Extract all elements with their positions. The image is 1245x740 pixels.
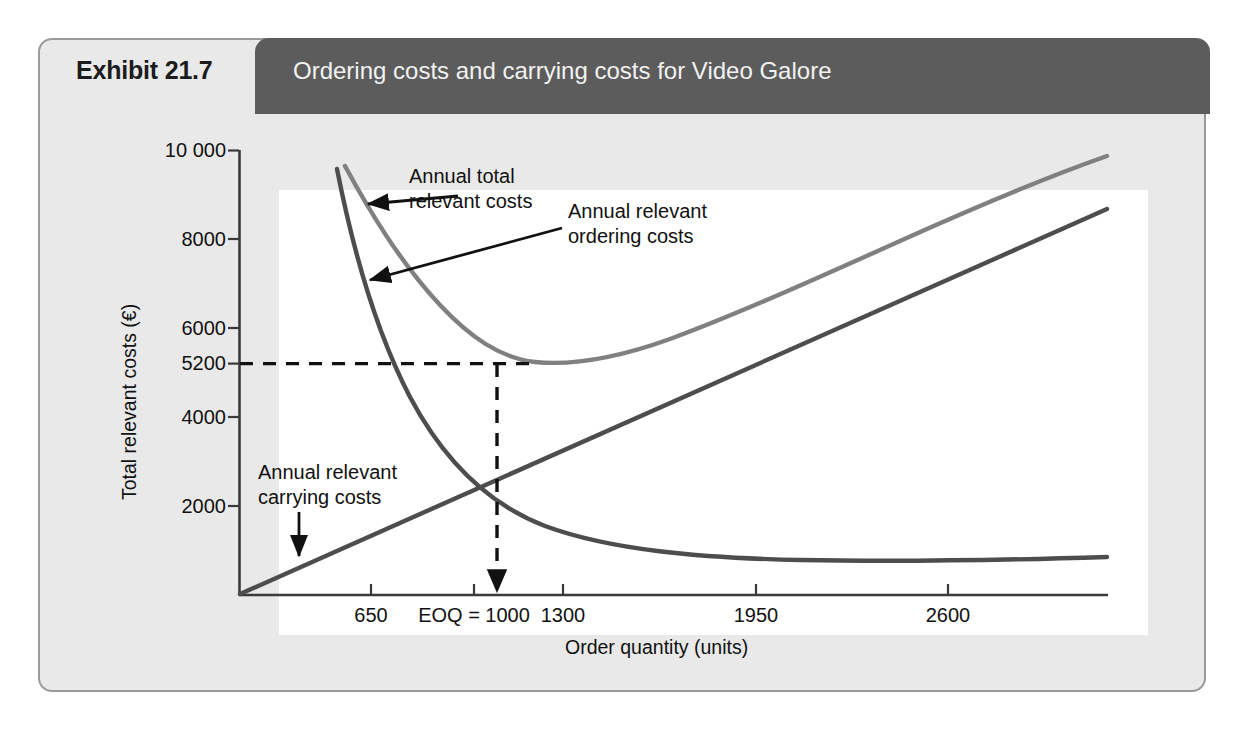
ytick-label-10000: 10 000 bbox=[138, 139, 226, 162]
ytick-label-6000: 6000 bbox=[138, 317, 226, 340]
annotation-annual-total-relevant-costs-line2: relevant costs bbox=[409, 189, 532, 214]
annotation-annual-relevant-carrying-costs-line2: carrying costs bbox=[258, 485, 381, 510]
annual-relevant-carrying-costs-line bbox=[240, 209, 1107, 594]
x-axis-ticks bbox=[371, 584, 948, 595]
y-axis-title: Total relevant costs (€) bbox=[118, 304, 141, 500]
ytick-label-2000: 2000 bbox=[138, 495, 226, 518]
ytick-label-5200: 5200 bbox=[138, 352, 226, 375]
xtick-label-2600: 2600 bbox=[908, 604, 988, 627]
annotation-annual-relevant-ordering-costs-line2: ordering costs bbox=[568, 224, 694, 249]
x-axis-title: Order quantity (units) bbox=[565, 636, 748, 659]
annotation-annual-relevant-carrying-costs-line1: Annual relevant bbox=[258, 460, 397, 485]
xtick-label-1300: 1300 bbox=[523, 604, 603, 627]
ytick-label-4000: 4000 bbox=[138, 406, 226, 429]
annotation-annual-relevant-ordering-costs-line1: Annual relevant bbox=[568, 199, 707, 224]
y-axis-ticks bbox=[228, 151, 239, 507]
xtick-label-1950: 1950 bbox=[716, 604, 796, 627]
annotation-annual-total-relevant-costs-line1: Annual total bbox=[409, 164, 515, 189]
ytick-label-8000: 8000 bbox=[138, 228, 226, 251]
